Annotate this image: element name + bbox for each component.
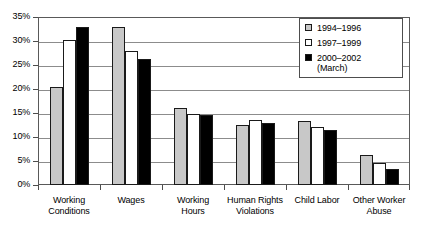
- bar[interactable]: [63, 40, 76, 185]
- bar-group: [162, 17, 224, 185]
- bar[interactable]: [125, 51, 138, 185]
- bar[interactable]: [76, 27, 89, 185]
- x-tick-mark: [38, 185, 39, 190]
- legend-item[interactable]: 1997–1999: [305, 38, 402, 48]
- bar[interactable]: [187, 114, 200, 185]
- chart-legend: 1994–19961997–19992000–2002 (March): [299, 18, 403, 78]
- bar[interactable]: [386, 169, 399, 185]
- bar[interactable]: [249, 120, 262, 185]
- x-tick-mark: [100, 185, 101, 190]
- legend-label: 1997–1999: [317, 38, 361, 48]
- bar[interactable]: [200, 115, 213, 185]
- x-tick-mark: [162, 185, 163, 190]
- legend-label: 2000–2002 (March): [317, 53, 361, 73]
- y-tick-label: 35%: [13, 12, 30, 21]
- y-tick-label: 5%: [17, 156, 30, 165]
- bar[interactable]: [324, 130, 337, 185]
- bar-group: [224, 17, 286, 185]
- x-tick-mark: [224, 185, 225, 190]
- y-axis: 0%5%10%15%20%25%30%35%: [0, 0, 34, 229]
- y-tick-label: 30%: [13, 36, 30, 45]
- y-tick-label: 10%: [13, 132, 30, 141]
- x-tick-mark: [348, 185, 349, 190]
- bar[interactable]: [360, 155, 373, 185]
- legend-item[interactable]: 1994–1996: [305, 23, 402, 33]
- bar[interactable]: [262, 123, 275, 185]
- bar[interactable]: [373, 163, 386, 185]
- x-category-label: Other Worker Abuse: [342, 195, 416, 217]
- y-tick-label: 25%: [13, 60, 30, 69]
- legend-swatch-icon: [305, 54, 312, 61]
- y-tick-label: 15%: [13, 108, 30, 117]
- bar[interactable]: [174, 108, 187, 185]
- x-axis: Working ConditionsWagesWorking HoursHuma…: [38, 185, 410, 229]
- legend-item[interactable]: 2000–2002 (March): [305, 53, 402, 73]
- x-tick-mark: [286, 185, 287, 190]
- x-tick-mark: [409, 185, 410, 190]
- bar[interactable]: [298, 121, 311, 185]
- y-tick-label: 0%: [17, 180, 30, 189]
- bar-group: [100, 17, 162, 185]
- bar[interactable]: [236, 125, 249, 185]
- bar[interactable]: [311, 127, 324, 185]
- legend-label: 1994–1996: [317, 23, 361, 33]
- legend-swatch-icon: [305, 39, 312, 46]
- bar-chart: 0%5%10%15%20%25%30%35% Working Condition…: [0, 0, 422, 229]
- bar[interactable]: [112, 27, 125, 185]
- bar[interactable]: [50, 87, 63, 185]
- bar[interactable]: [138, 59, 151, 185]
- y-tick-label: 20%: [13, 84, 30, 93]
- bar-group: [38, 17, 100, 185]
- legend-swatch-icon: [305, 24, 312, 31]
